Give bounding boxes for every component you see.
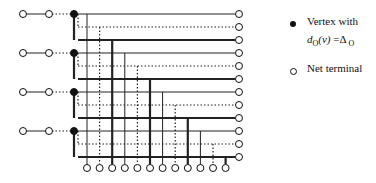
net-terminal-icon (84, 165, 91, 172)
net-terminal-icon (20, 128, 27, 135)
net-terminal-icon (290, 68, 297, 75)
net-terminal-icon (134, 165, 141, 172)
net-terminal-icon (46, 89, 53, 96)
routing-diagram (0, 0, 260, 183)
net-terminal-icon (236, 102, 243, 109)
net-terminal-icon (197, 165, 204, 172)
net-terminal-icon (210, 165, 217, 172)
net-terminal-icon (236, 76, 243, 83)
net-terminal-icon (236, 141, 243, 148)
net-terminal-icon (236, 154, 243, 161)
net-terminal-icon (236, 63, 243, 70)
filled-vertex-icon (290, 21, 296, 27)
net-terminal-icon (159, 165, 166, 172)
net-terminal-icon (20, 11, 27, 18)
net-terminal-icon (222, 165, 229, 172)
net-terminal-icon (147, 165, 154, 172)
net-terminal-icon (236, 11, 243, 18)
legend-vertex-label: Vertex with (307, 15, 358, 27)
net-terminal-icon (96, 165, 103, 172)
net-terminal-icon (46, 128, 53, 135)
filled-vertex-icon (71, 50, 78, 57)
net-terminal-icon (236, 24, 243, 31)
filled-vertex-icon (71, 89, 78, 96)
net-terminal-icon (46, 50, 53, 57)
net-terminal-icon (172, 165, 179, 172)
filled-vertex-icon (71, 128, 78, 135)
net-terminal-icon (236, 37, 243, 44)
net-terminal-icon (236, 128, 243, 135)
legend-vertex-formula: dO(v) =Δ O (307, 33, 354, 48)
net-terminal-icon (236, 50, 243, 57)
net-terminal-icon (236, 115, 243, 122)
net-terminal-icon (121, 165, 128, 172)
net-terminal-icon (46, 11, 53, 18)
net-terminal-icon (20, 50, 27, 57)
net-terminal-icon (236, 89, 243, 96)
net-terminal-icon (20, 89, 27, 96)
net-terminal-icon (184, 165, 191, 172)
legend-terminal-label: Net terminal (307, 62, 362, 74)
net-terminal-icon (109, 165, 116, 172)
filled-vertex-icon (71, 11, 78, 18)
